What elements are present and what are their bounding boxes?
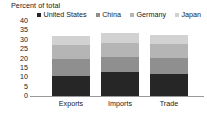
y-axis-tick-labels: 0510152025303540 (10, 21, 28, 96)
bar-segment[interactable] (101, 57, 139, 72)
y-tick-label: 30 (12, 36, 28, 44)
chart-title: Percent of total (11, 2, 60, 10)
legend-swatch-china (96, 13, 100, 17)
bar-segment[interactable] (150, 44, 188, 57)
y-tick-label: 40 (12, 17, 28, 25)
stacked-bar-chart: Percent of total United States China Ger… (0, 0, 207, 117)
x-category-label: Trade (139, 99, 199, 108)
bar-segment[interactable] (52, 36, 90, 45)
y-tick-label: 20 (12, 55, 28, 63)
bar-segment[interactable] (101, 33, 139, 42)
y-tick-label: 0 (12, 92, 28, 100)
legend-item-japan[interactable]: Japan (175, 11, 201, 19)
y-tick-label: 35 (12, 26, 28, 34)
legend-swatch-united-states (37, 13, 41, 17)
y-tick-label: 10 (12, 73, 28, 81)
legend-item-united-states[interactable]: United States (37, 11, 87, 19)
legend-swatch-germany (130, 13, 134, 17)
y-tick-label: 25 (12, 45, 28, 53)
chart-legend: United States China Germany Japan (37, 11, 201, 19)
bar-stack (101, 33, 139, 96)
bar-segment[interactable] (101, 43, 139, 57)
x-axis-baseline (30, 96, 204, 97)
bar-segment[interactable] (150, 74, 188, 96)
bar-plot-area (30, 21, 204, 96)
legend-label-germany: Germany (136, 11, 166, 19)
bar-group[interactable] (101, 21, 139, 96)
bar-stack (150, 35, 188, 97)
legend-swatch-japan (175, 13, 179, 17)
bar-stack (52, 36, 90, 96)
bar-segment[interactable] (150, 35, 188, 45)
legend-label-japan: Japan (182, 11, 202, 19)
y-tick-label: 5 (12, 83, 28, 91)
y-tick-label: 15 (12, 64, 28, 72)
x-axis-category-labels: ExportsImportsTrade (30, 99, 204, 113)
bar-segment[interactable] (101, 72, 139, 96)
bar-segment[interactable] (52, 59, 90, 77)
legend-item-germany[interactable]: Germany (130, 11, 166, 19)
legend-label-china: China (102, 11, 121, 19)
legend-item-china[interactable]: China (96, 11, 121, 19)
bar-group[interactable] (52, 21, 90, 96)
bar-group[interactable] (150, 21, 188, 96)
legend-label-united-states: United States (44, 11, 87, 19)
bar-segment[interactable] (52, 76, 90, 96)
bar-segment[interactable] (150, 58, 188, 74)
bar-segment[interactable] (52, 45, 90, 58)
